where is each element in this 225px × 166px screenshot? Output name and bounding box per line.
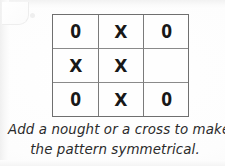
worksheet-page: 0 X 0 X X 0 X 0 Add a nought or a cross … [0,0,225,166]
grid-cell-r1c1[interactable]: 0 [53,15,99,49]
paper-corner-curl [2,2,29,25]
grid-cell-r1c3[interactable]: 0 [144,15,188,49]
cell-mark-r3c2: X [114,91,127,109]
grid-cell-r1c2[interactable]: X [99,15,144,49]
tic-tac-toe-grid: 0 X 0 X X 0 X 0 [52,14,189,117]
cell-mark-r1c1: 0 [70,22,80,41]
cell-mark-r1c3: 0 [161,22,171,41]
grid-cell-r2c1[interactable]: X [53,49,99,83]
caption-line-2: the pattern symmetrical. [8,140,222,160]
cell-mark-r3c1: 0 [70,90,80,109]
paper-bottom-shadow [0,160,225,166]
grid-cell-r3c2[interactable]: X [99,83,144,116]
instruction-caption: Add a nought or a cross to make the patt… [8,120,222,160]
cell-mark-r2c2: X [114,57,127,75]
paper-top-edge [0,0,225,8]
grid-cell-r3c1[interactable]: 0 [53,83,99,116]
grid-cell-r2c2[interactable]: X [99,49,144,83]
grid-cell-r3c3[interactable]: 0 [144,83,188,116]
paper-speck [30,13,35,18]
cell-mark-r1c2: X [114,23,127,41]
caption-line-1: Add a nought or a cross to make [8,120,222,140]
grid-cell-r2c3-empty[interactable] [144,49,188,83]
cell-mark-r3c3: 0 [161,90,171,109]
cell-mark-r2c1: X [69,57,82,75]
